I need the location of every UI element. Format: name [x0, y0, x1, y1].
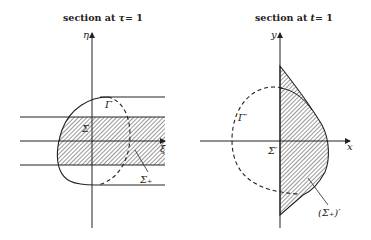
sigma-plus-prime-label: (Σ₊)′: [318, 208, 340, 218]
left-panel-title: section at τ= 1: [63, 12, 143, 23]
right-panel-title: section at t= 1: [255, 12, 333, 23]
left-diagram: [20, 33, 165, 228]
right-title-prefix: section at: [255, 12, 307, 23]
figure-canvas: [0, 0, 371, 240]
sigma-dot-label: Σ̇: [82, 124, 89, 134]
xi-axis-label: ξ: [160, 144, 166, 154]
x-axis-label: x: [347, 142, 353, 152]
eta-axis-label: η: [83, 30, 89, 40]
sigma-plus-label: Σ₊: [140, 175, 152, 185]
left-title-suffix: = 1: [125, 12, 143, 23]
right-diagram: [200, 33, 350, 228]
left-title-prefix: section at: [63, 12, 115, 23]
right-title-suffix: = 1: [315, 12, 333, 23]
gamma-prime-label: Γ′: [238, 113, 247, 123]
gamma-label: Γ: [105, 100, 112, 110]
y-axis-label: y: [271, 30, 277, 40]
sigma-dot-prime-label: Σ̇′: [268, 146, 277, 156]
